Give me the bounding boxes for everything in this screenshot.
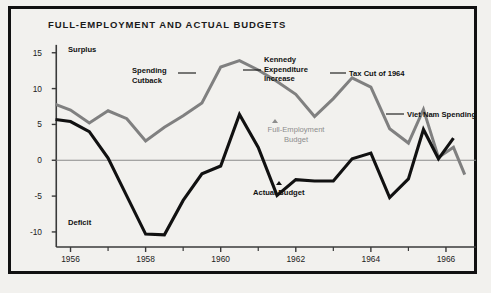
y-tick-label: -10	[10, 227, 42, 237]
x-tick-label: 1958	[124, 254, 168, 264]
y-tick-label: 10	[10, 84, 42, 94]
x-tick-label: 1960	[199, 254, 243, 264]
x-tick-label: 1956	[49, 254, 93, 264]
viet-nam-spending-annotation: Viet Nam Spending	[407, 110, 476, 120]
kennedy-line3: Increase	[264, 74, 295, 83]
chart-plot-area	[0, 0, 491, 293]
y-tick-label: 5	[10, 119, 42, 129]
actual-budget-pointer-icon	[276, 181, 282, 185]
full-employment-budget-series-label: Full-Employment Budget	[240, 125, 352, 144]
tax-cut-annotation: Tax Cut of 1964	[349, 69, 405, 79]
x-tick-label: 1966	[424, 254, 468, 264]
series-layer	[56, 61, 465, 235]
full-employment-line1: Full-Employment	[268, 125, 325, 134]
spending-cutback-line1: Spending	[132, 66, 167, 75]
kennedy-line2: Expenditure	[264, 65, 308, 74]
kennedy-expenditure-annotation: Kennedy Expenditure Increase	[264, 55, 308, 84]
spending-cutback-line2: Cutback	[132, 76, 162, 85]
full-employment-pointer-icon	[272, 119, 278, 123]
full-employment-line2: Budget	[284, 135, 308, 144]
x-tick-label: 1964	[349, 254, 393, 264]
y-tick-label: 0	[10, 155, 42, 165]
x-tick-label: 1962	[274, 254, 318, 264]
kennedy-line1: Kennedy	[264, 55, 296, 64]
y-tick-label: 15	[10, 48, 42, 58]
deficit-label: Deficit	[68, 218, 91, 228]
spending-cutback-annotation: Spending Cutback	[132, 66, 167, 85]
actual-budget-series-label: Actual Budget	[253, 188, 304, 198]
chart-page: FULL-EMPLOYMENT AND ACTUAL BUDGETS 15105…	[0, 0, 491, 293]
surplus-label: Surplus	[68, 45, 96, 55]
y-tick-label: -5	[10, 191, 42, 201]
